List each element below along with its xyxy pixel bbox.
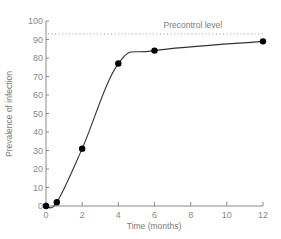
data-point-marker xyxy=(79,145,85,151)
data-point-marker xyxy=(43,203,49,209)
y-tick-label: 50 xyxy=(33,109,43,119)
y-tick-label: 70 xyxy=(33,72,43,82)
x-tick-label: 10 xyxy=(222,210,232,220)
data-series xyxy=(43,38,266,209)
chart: 0102030405060708090100 024681012 Time (m… xyxy=(0,0,281,239)
y-tick-label: 90 xyxy=(33,35,43,45)
data-point-marker xyxy=(260,38,266,44)
y-tick-label: 30 xyxy=(33,146,43,156)
x-axis-label: Time (months) xyxy=(127,221,182,231)
y-tick-label: 40 xyxy=(33,127,43,137)
x-tick-label: 8 xyxy=(188,210,193,220)
y-tick-label: 0 xyxy=(38,201,43,211)
x-tick-label: 4 xyxy=(116,210,121,220)
y-axis-label: Prevalence of infection xyxy=(4,71,14,157)
data-point-marker xyxy=(115,60,121,66)
data-point-marker xyxy=(54,199,60,205)
x-tick-label: 2 xyxy=(80,210,85,220)
x-tick-label: 6 xyxy=(152,210,157,220)
y-tick-label: 10 xyxy=(33,183,43,193)
y-tick-label: 20 xyxy=(33,164,43,174)
x-axis: 024681012 xyxy=(43,202,268,220)
series-line xyxy=(46,41,263,208)
x-tick-label: 12 xyxy=(258,210,268,220)
y-tick-label: 100 xyxy=(28,16,43,26)
x-tick-label: 0 xyxy=(43,210,48,220)
y-axis: 0102030405060708090100 xyxy=(28,16,49,211)
precontrol-level-label: Precontrol level xyxy=(164,20,223,30)
y-tick-label: 80 xyxy=(33,53,43,63)
y-tick-label: 60 xyxy=(33,90,43,100)
annotations: Precontrol level xyxy=(164,20,223,30)
data-point-marker xyxy=(151,47,157,53)
